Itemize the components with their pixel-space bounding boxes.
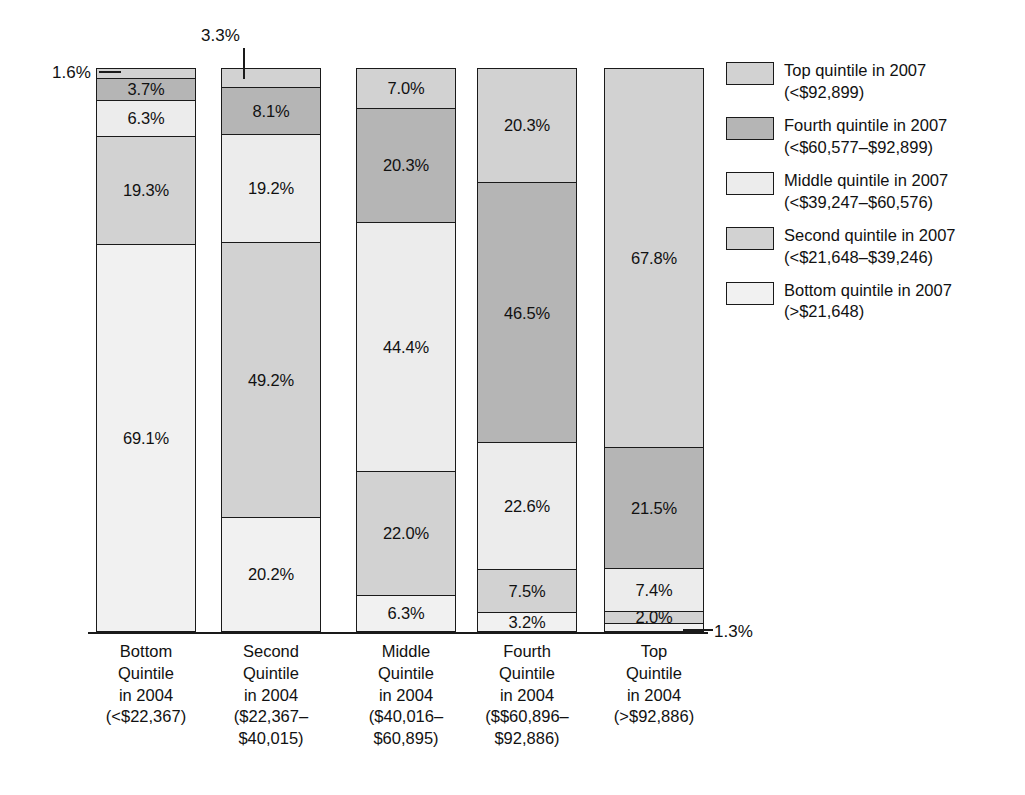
- callout-3-3-label: 3.3%: [201, 27, 240, 44]
- segment-value-label: 49.2%: [248, 372, 294, 389]
- bar-segment: 7.4%: [605, 569, 703, 611]
- bar-segment: 69.1%: [97, 245, 195, 631]
- legend-label-line: (>$21,648): [784, 301, 952, 323]
- bar-segment: 49.2%: [222, 243, 320, 519]
- legend-label: Bottom quintile in 2007(>$21,648): [784, 280, 952, 324]
- legend-label-line: Second quintile in 2007: [784, 225, 956, 247]
- x-axis-label-line: Quintile: [579, 663, 729, 685]
- legend-item-4[interactable]: Bottom quintile in 2007(>$21,648): [726, 280, 1021, 324]
- segment-value-label: 22.6%: [504, 498, 550, 515]
- legend-label-line: Bottom quintile in 2007: [784, 280, 952, 302]
- legend-swatch: [726, 62, 774, 85]
- legend-label: Top quintile in 2007(<$92,899): [784, 60, 926, 104]
- segment-value-label: 46.5%: [504, 305, 550, 322]
- callout-1-6-leader-line: [99, 71, 121, 73]
- bar-segment: 8.1%: [222, 88, 320, 134]
- bar-top-quintile-2004: 67.8%21.5%7.4%2.0%1.3%: [604, 68, 704, 632]
- bar-segment: 21.5%: [605, 448, 703, 569]
- x-axis-label-line: in 2004: [579, 685, 729, 707]
- segment-value-label: 7.5%: [509, 583, 546, 600]
- bar-segment: 19.3%: [97, 137, 195, 246]
- segment-value-label: 2.0%: [636, 612, 673, 624]
- bar-bottom-quintile-2004: 1.6%3.7%6.3%19.3%69.1%: [96, 68, 196, 632]
- callout-1-3-label: 1.3%: [714, 623, 753, 640]
- bar-segment: 3.2%: [478, 613, 576, 631]
- bar-segment: 7.5%: [478, 570, 576, 613]
- bar-segment: 67.8%: [605, 69, 703, 448]
- legend-swatch: [726, 172, 774, 195]
- legend-label-line: (<$39,247–$60,576): [784, 192, 948, 214]
- legend-swatch: [726, 282, 774, 305]
- bar-segment: 6.3%: [97, 101, 195, 137]
- plot-area: 1.6%3.7%6.3%19.3%69.1%3.3%8.1%19.2%49.2%…: [0, 0, 730, 795]
- legend-label-line: (<$21,648–$39,246): [784, 247, 956, 269]
- segment-value-label: 67.8%: [631, 250, 677, 267]
- legend-label: Second quintile in 2007(<$21,648–$39,246…: [784, 225, 956, 269]
- segment-value-label: 69.1%: [123, 430, 169, 447]
- bar-segment: 2.0%: [605, 612, 703, 624]
- legend-item-0[interactable]: Top quintile in 2007(<$92,899): [726, 60, 1021, 104]
- bar-segment: 3.7%: [97, 79, 195, 101]
- x-axis-label-line: in 2004: [196, 685, 346, 707]
- chart-legend: Top quintile in 2007(<$92,899)Fourth qui…: [726, 60, 1021, 334]
- stacked-bar-chart: 1.6%3.7%6.3%19.3%69.1%3.3%8.1%19.2%49.2%…: [0, 0, 1025, 795]
- segment-value-label: 6.3%: [388, 605, 425, 622]
- legend-swatch: [726, 227, 774, 250]
- legend-label-line: (<$60,577–$92,899): [784, 137, 947, 159]
- legend-label-line: Middle quintile in 2007: [784, 170, 948, 192]
- x-axis-label-line: $92,886): [452, 728, 602, 750]
- bar-segment: 20.3%: [357, 109, 455, 223]
- bar-segment: 19.2%: [222, 135, 320, 243]
- legend-item-3[interactable]: Second quintile in 2007(<$21,648–$39,246…: [726, 225, 1021, 269]
- bar-segment: 46.5%: [478, 183, 576, 443]
- segment-value-label: 3.2%: [509, 614, 546, 631]
- bar-segment: 22.0%: [357, 472, 455, 596]
- bar-segment: 20.2%: [222, 518, 320, 631]
- legend-label-line: Top quintile in 2007: [784, 60, 926, 82]
- bar-segment: 3.3%: [222, 69, 320, 88]
- callout-1-6-label: 1.6%: [52, 64, 91, 81]
- segment-value-label: 20.2%: [248, 566, 294, 583]
- segment-value-label: 20.3%: [504, 117, 550, 134]
- x-axis-label-line: Top: [579, 641, 729, 663]
- callout-3-3-leader-line: [243, 48, 245, 79]
- legend-label: Fourth quintile in 2007(<$60,577–$92,899…: [784, 115, 947, 159]
- x-axis-label-line: $40,015): [196, 728, 346, 750]
- segment-value-label: 21.5%: [631, 500, 677, 517]
- x-axis-label-4: TopQuintilein 2004(>$92,886): [579, 641, 729, 728]
- legend-item-2[interactable]: Middle quintile in 2007(<$39,247–$60,576…: [726, 170, 1021, 214]
- bar-fourth-quintile-2004: 20.3%46.5%22.6%7.5%3.2%: [477, 68, 577, 632]
- bar-segment: 7.0%: [357, 69, 455, 109]
- legend-item-1[interactable]: Fourth quintile in 2007(<$60,577–$92,899…: [726, 115, 1021, 159]
- legend-label-line: (<$92,899): [784, 82, 926, 104]
- bar-segment: 6.3%: [357, 596, 455, 631]
- x-axis-labels: BottomQuintilein 2004(<$22,367)SecondQui…: [0, 641, 730, 771]
- legend-swatch: [726, 117, 774, 140]
- segment-value-label: 8.1%: [253, 103, 290, 120]
- segment-value-label: 6.3%: [128, 110, 165, 127]
- x-axis-label-line: Quintile: [196, 663, 346, 685]
- x-axis-label-line: (>$92,886): [579, 706, 729, 728]
- x-axis-label-line: Second: [196, 641, 346, 663]
- segment-value-label: 19.2%: [248, 180, 294, 197]
- segment-value-label: 7.0%: [388, 80, 425, 97]
- x-axis-label-line: ($22,367–: [196, 706, 346, 728]
- x-axis-baseline: [88, 632, 708, 634]
- segment-value-label: 22.0%: [383, 525, 429, 542]
- segment-value-label: 19.3%: [123, 182, 169, 199]
- x-axis-label-1: SecondQuintilein 2004($22,367–$40,015): [196, 641, 346, 750]
- segment-value-label: 3.7%: [128, 81, 165, 98]
- segment-value-label: 7.4%: [636, 582, 673, 599]
- legend-label: Middle quintile in 2007(<$39,247–$60,576…: [784, 170, 948, 214]
- bar-segment: 22.6%: [478, 443, 576, 570]
- bar-segment: 20.3%: [478, 69, 576, 183]
- bar-second-quintile-2004: 3.3%8.1%19.2%49.2%20.2%: [221, 68, 321, 632]
- segment-value-label: 20.3%: [383, 157, 429, 174]
- bar-segment: 44.4%: [357, 223, 455, 472]
- bar-middle-quintile-2004: 7.0%20.3%44.4%22.0%6.3%: [356, 68, 456, 632]
- callout-1-3-leader-line: [683, 629, 713, 631]
- legend-label-line: Fourth quintile in 2007: [784, 115, 947, 137]
- segment-value-label: 44.4%: [383, 339, 429, 356]
